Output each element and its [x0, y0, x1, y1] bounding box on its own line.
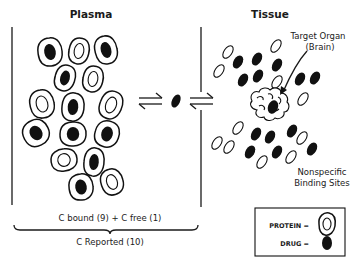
free-drug-icon [169, 93, 182, 109]
occupied-binding-site-icon [231, 54, 246, 71]
plasma-protein-group [18, 33, 127, 201]
occupied-binding-site-icon [308, 70, 323, 87]
empty-binding-site-icon [295, 130, 310, 146]
occupied-binding-site-icon [270, 144, 285, 161]
bound-protein-icon [83, 147, 105, 177]
concentration-reported-label: C Reported (10) [76, 237, 144, 247]
empty-binding-site-icon [296, 91, 311, 107]
concentration-brace [14, 225, 198, 234]
free-protein-icon [49, 147, 79, 173]
equilibrium-arrows-icon [139, 93, 162, 109]
occupied-binding-site-icon [243, 144, 258, 161]
occupied-binding-site-icon [249, 126, 264, 143]
free-protein-icon [67, 36, 91, 65]
target-organ-sublabel: (Brain) [306, 42, 335, 52]
drug-icon [322, 236, 332, 250]
empty-binding-site-icon [269, 38, 284, 54]
target-organ-label: Target Organ [289, 31, 345, 41]
empty-binding-site-icon [212, 63, 227, 79]
occupied-binding-site-icon [250, 51, 265, 68]
free-protein-icon [27, 87, 58, 121]
bound-protein-icon [36, 36, 65, 68]
concentration-sum-label: C bound (9) + C free (1) [59, 213, 162, 223]
legend-drug-label: DRUG = [280, 240, 309, 248]
bound-protein-icon [92, 33, 121, 66]
occupied-binding-site-icon [285, 123, 300, 140]
occupied-binding-site-icon [236, 72, 251, 89]
protein-icon [319, 213, 335, 235]
empty-binding-site-icon [284, 149, 299, 165]
nonspecific-sublabel: Binding Sites [294, 178, 350, 188]
occupied-binding-site-icon [270, 57, 285, 74]
empty-binding-site-icon [222, 139, 237, 155]
brain-icon [251, 88, 289, 121]
bound-protein-icon [18, 115, 54, 151]
free-protein-icon [81, 64, 105, 93]
plasma-title: Plasma [70, 8, 113, 20]
nonspecific-label: Nonspecific [297, 167, 346, 177]
bound-protein-icon [92, 118, 122, 150]
bound-protein-icon [52, 63, 78, 94]
legend: PROTEIN = DRUG = [255, 208, 345, 256]
occupied-binding-site-icon [251, 68, 266, 85]
empty-binding-site-icon [221, 44, 236, 60]
legend-protein-label: PROTEIN = [269, 222, 309, 230]
occupied-binding-site-icon [293, 71, 308, 88]
bound-protein-icon [67, 172, 95, 202]
drug-distribution-diagram: Plasma Tissue Target Organ (Brain) [0, 0, 358, 266]
equilibrium-arrows-icon [190, 93, 213, 109]
bound-protein-icon [60, 122, 86, 146]
empty-binding-site-icon [255, 154, 270, 170]
tissue-title: Tissue [251, 8, 289, 20]
occupied-binding-site-icon [305, 141, 320, 158]
bound-protein-icon [61, 92, 85, 122]
occupied-binding-site-icon [263, 129, 278, 146]
empty-binding-site-icon [231, 120, 246, 136]
empty-binding-site-icon [210, 135, 225, 151]
free-protein-icon [96, 88, 126, 122]
